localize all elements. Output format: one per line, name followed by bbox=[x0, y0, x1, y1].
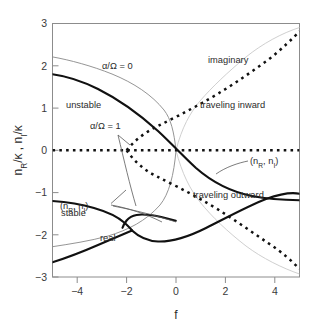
y-tick-label: −3 bbox=[35, 271, 47, 283]
x-tick-label: 0 bbox=[173, 285, 179, 297]
pair-left-prefix: (n bbox=[60, 201, 68, 211]
pair-right-suffix: ) bbox=[275, 156, 278, 166]
annotation-traveling-outward: traveling outward bbox=[193, 190, 264, 200]
annotation-unstable: unstable bbox=[66, 100, 101, 110]
y-tick-label: 2 bbox=[41, 60, 47, 72]
y-tick-label: 1 bbox=[41, 102, 47, 114]
pair-right-prefix: (n bbox=[250, 156, 258, 166]
pair-left-mid: , n bbox=[73, 201, 83, 211]
annotation-traveling-inward: traveling inward bbox=[200, 100, 265, 110]
y-axis-title-n1: n bbox=[11, 169, 25, 176]
x-tick-label: −4 bbox=[71, 285, 83, 297]
x-tick-label: 4 bbox=[272, 285, 278, 297]
annotation-alpha-zero: α/Ω = 0 bbox=[102, 61, 133, 71]
pair-left-suffix: ) bbox=[85, 201, 88, 211]
x-tick-label: −2 bbox=[121, 285, 133, 297]
annotation-imaginary: imaginary bbox=[208, 55, 249, 65]
y-tick-label: −1 bbox=[35, 186, 47, 198]
y-tick-label: 3 bbox=[41, 17, 47, 29]
annotation-alpha-one: α/Ω = 1 bbox=[90, 121, 121, 131]
x-tick-label: 2 bbox=[222, 285, 228, 297]
figure-container: 3 2 1 0 −1 −2 −3 −4 −2 0 2 4 f nR/κ , nI… bbox=[0, 0, 316, 331]
dispersion-plot: 3 2 1 0 −1 −2 −3 −4 −2 0 2 4 f nR/κ , nI… bbox=[0, 0, 316, 331]
y-tick-label: 0 bbox=[41, 144, 47, 156]
annotation-real: real bbox=[100, 233, 116, 243]
y-axis-title-tail: /κ bbox=[11, 124, 25, 134]
pair-right-mid: , n bbox=[263, 156, 273, 166]
y-tick-label: −2 bbox=[35, 229, 47, 241]
y-axis-title-mid: /κ , n bbox=[11, 137, 25, 163]
